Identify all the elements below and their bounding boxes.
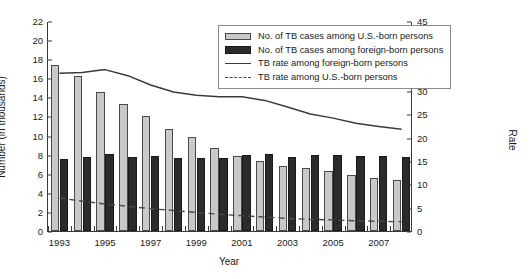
legend-item-label: No. of TB cases among foreign-born perso…	[258, 46, 443, 55]
line-solid-swatch	[225, 58, 251, 69]
bar-light-swatch	[225, 31, 251, 42]
x-axis-tick-label: 2005	[323, 237, 344, 248]
secondary-y-axis-title: Rate	[507, 129, 518, 150]
y-axis-tick-label: 16	[32, 75, 48, 85]
y-axis-tick-label: 8	[38, 151, 48, 161]
secondary-y-axis-tick-label: 20	[411, 134, 428, 144]
y-axis-tick-label: 22	[32, 17, 48, 27]
chart-legend: No. of TB cases among U.S.-born persons …	[218, 25, 451, 89]
y-axis-tick-label: 2	[38, 208, 48, 218]
x-axis-tick-label: 1999	[186, 237, 207, 248]
y-axis-tick-label: 20	[32, 36, 48, 46]
legend-item-foreign-born-rate: TB rate among foreign-born persons	[225, 57, 443, 71]
y-axis-tick-label: 0	[38, 227, 48, 237]
legend-item-label: No. of TB cases among U.S.-born persons	[258, 32, 433, 41]
line-dashed-swatch	[225, 72, 251, 83]
x-axis-tick-label: 1995	[94, 237, 115, 248]
secondary-y-axis-tick-label: 10	[411, 181, 428, 191]
legend-item-us-born-cases: No. of TB cases among U.S.-born persons	[225, 30, 443, 44]
y-axis-title: Number (in thousands)	[0, 76, 7, 178]
x-axis-tick-label: 2003	[277, 237, 298, 248]
tb-cases-and-rates-chart: Number (in thousands) Rate Year 02468101…	[0, 0, 531, 279]
y-axis-tick-label: 10	[32, 132, 48, 142]
bar-dark-swatch	[225, 45, 251, 56]
x-axis-tick-label: 1997	[140, 237, 161, 248]
y-axis-tick-label: 4	[38, 189, 48, 199]
x-axis-tick-label: 2007	[368, 237, 389, 248]
legend-item-foreign-born-cases: No. of TB cases among foreign-born perso…	[225, 44, 443, 58]
y-axis-tick-label: 6	[38, 170, 48, 180]
x-axis-tick-label: 2001	[231, 237, 252, 248]
secondary-y-axis-tick-label: 15	[411, 157, 428, 167]
legend-item-label: TB rate among foreign-born persons	[258, 59, 408, 68]
legend-item-us-born-rate: TB rate among U.S.-born persons	[225, 71, 443, 85]
secondary-y-axis-tick-label: 25	[411, 111, 428, 121]
line-series	[59, 198, 401, 222]
y-axis-tick-label: 12	[32, 113, 48, 123]
x-axis-tick-label: 1993	[49, 237, 70, 248]
x-axis-title: Year	[219, 256, 239, 267]
y-axis-tick-label: 18	[32, 55, 48, 65]
legend-item-label: TB rate among U.S.-born persons	[258, 73, 398, 82]
y-axis-tick-label: 14	[32, 94, 48, 104]
